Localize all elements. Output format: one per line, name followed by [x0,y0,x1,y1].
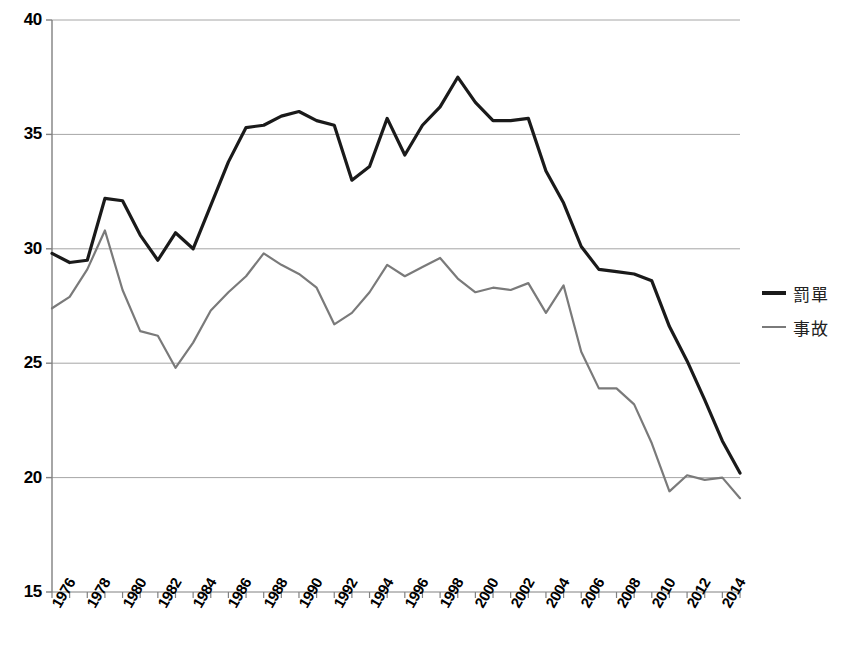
legend-swatch-accidents [762,326,786,329]
y-tick-label: 20 [0,468,42,488]
y-tick-label: 15 [0,582,42,602]
legend-item-accidents: 事故 [762,310,828,344]
y-tick-label: 35 [0,124,42,144]
series-line-accidents [52,231,740,499]
legend-label-accidents: 事故 [793,315,828,340]
legend-item-tickets: 罰單 [762,276,828,310]
series-line-tickets [52,77,740,473]
y-tick-label: 25 [0,353,42,373]
y-tick-label: 30 [0,239,42,259]
chart-legend: 罰單 事故 [762,276,828,344]
line-chart: 152025303540 197619781980198219841986198… [0,0,857,657]
chart-plot-area [0,0,857,657]
y-tick-label: 40 [0,10,42,30]
legend-label-tickets: 罰單 [793,281,828,306]
legend-swatch-tickets [762,291,786,295]
